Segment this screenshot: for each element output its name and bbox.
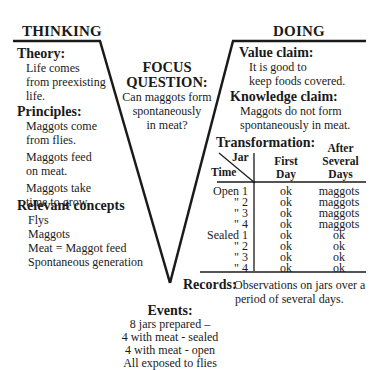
header-line: After [313, 142, 368, 155]
focus-title: QUESTION: [112, 75, 222, 90]
focus-line: spontaneously [112, 104, 222, 118]
knowledge-claim-line: spontaneously in meat. [240, 118, 350, 132]
value-claim-text: It is good to keep foods covered. [239, 60, 345, 88]
records-line: Observations on jars over a [234, 278, 365, 292]
principle-line: Maggots come [26, 119, 97, 133]
focus-line: Can maggots form [112, 90, 222, 104]
theory-section: Theory: Life comes from preexisting life… [17, 46, 106, 103]
events-line: All exposed to flies [120, 357, 220, 370]
focus-question: FOCUS QUESTION: Can maggots form spontan… [112, 60, 222, 132]
value-claim-line: It is good to [249, 60, 345, 74]
header-line: Days [313, 168, 368, 181]
principles-title: Principles: [17, 104, 97, 119]
knowledge-claim-title: Knowledge claim: [230, 89, 350, 104]
theory-text: Life comes from preexisting life. [17, 61, 106, 103]
principles-section: Principles: Maggots come from flies. Mag… [17, 104, 97, 209]
theory-title: Theory: [17, 46, 106, 61]
table-cell-after: ok [309, 262, 369, 275]
records-text: Observations on jars over a period of se… [234, 278, 365, 306]
concept-item: Spontaneous generation [28, 255, 143, 269]
header-line: First [266, 155, 306, 168]
header-line: Several [313, 155, 368, 168]
principles-list: Maggots come from flies. Maggots feed on… [17, 119, 97, 209]
theory-line: life. [26, 89, 106, 103]
principle-line: Maggots take [26, 181, 97, 195]
principle-line: Maggots feed [26, 150, 97, 164]
records-title: Records: [183, 277, 237, 292]
focus-line: in meat? [112, 118, 222, 132]
transformation-title: Transformation: [216, 135, 315, 150]
table-cell-first: ok [266, 262, 306, 275]
principle-line: on meat. [26, 164, 97, 178]
thinking-heading: THINKING [22, 23, 102, 40]
concepts-section: Relevant concepts Flys Maggots Meat = Ma… [17, 198, 143, 269]
principle-item: Maggots feed on meat. [26, 150, 97, 178]
value-claim-title: Value claim: [239, 45, 345, 60]
doing-heading: DOING [273, 23, 325, 40]
theory-line: from preexisting [26, 75, 106, 89]
value-claim-line: keep foods covered. [249, 74, 345, 88]
table-header-jar: Jar [232, 151, 249, 164]
knowledge-claim-text: Maggots do not form spontaneously in mea… [230, 104, 350, 132]
knowledge-claim-section: Knowledge claim: Maggots do not form spo… [230, 89, 350, 132]
table-header-time: Time [211, 166, 236, 179]
knowledge-claim-line: Maggots do not form [240, 104, 350, 118]
concept-item: Meat = Maggot feed [28, 241, 143, 255]
events-section: Events: 8 jars prepared – 4 with meat - … [120, 303, 220, 370]
records-line: period of several days. [234, 292, 365, 306]
table-header-after-several-days: After Several Days [313, 142, 368, 181]
theory-line: Life comes [26, 61, 106, 75]
events-title: Events: [120, 303, 220, 318]
focus-title: FOCUS [112, 60, 222, 75]
concept-item: Flys [28, 213, 143, 227]
principle-line: from flies. [26, 133, 97, 147]
header-line: Day [266, 168, 306, 181]
table-cell-time: " 4 [196, 262, 248, 275]
table-header-first-day: First Day [266, 155, 306, 181]
principle-item: Maggots come from flies. [26, 119, 97, 147]
value-claim-section: Value claim: It is good to keep foods co… [239, 45, 345, 88]
concepts-title: Relevant concepts [17, 198, 143, 213]
concepts-list: Flys Maggots Meat = Maggot feed Spontane… [17, 213, 143, 269]
concept-item: Maggots [28, 227, 143, 241]
